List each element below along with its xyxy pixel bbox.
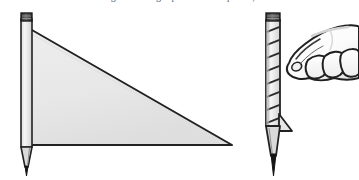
pencil-graphite-tip: [25, 166, 28, 176]
right-figure: [264, 13, 359, 176]
pencil-ferrule: [21, 13, 32, 21]
pennant-triangle: [25, 26, 232, 145]
pencil-wood-cone: [21, 147, 32, 167]
shaft-shade-band: [266, 20, 269, 126]
little-finger: [340, 49, 359, 77]
left-figure: [21, 13, 232, 176]
pencil-shaft: [21, 19, 32, 147]
pencil-graphite-tip: [271, 154, 276, 176]
pencil-wood-cone: [266, 126, 280, 156]
pointing-hand: [287, 25, 359, 80]
pencil-ferrule: [266, 13, 280, 21]
figure-svg: [0, 0, 359, 180]
small-pennant-triangle: [279, 114, 292, 131]
fingernail: [292, 62, 302, 71]
illustration-canvas: a line drawing of a triangle pennant on …: [0, 0, 359, 180]
